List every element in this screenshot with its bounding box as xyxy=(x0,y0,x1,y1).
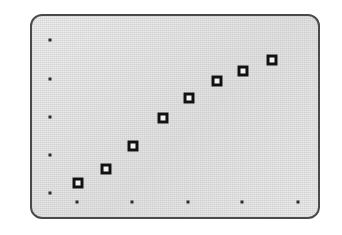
data-point-marker xyxy=(184,93,195,104)
x-axis-tick-2 xyxy=(187,201,190,204)
y-axis-tick-4 xyxy=(49,192,52,195)
data-point-marker xyxy=(128,141,139,152)
x-axis-tick-0 xyxy=(76,201,79,204)
x-axis-tick-1 xyxy=(131,201,134,204)
data-point-marker xyxy=(212,76,223,87)
figure-root xyxy=(0,0,342,235)
data-point-marker xyxy=(267,55,278,66)
x-axis-tick-3 xyxy=(241,201,244,204)
data-point-marker xyxy=(158,113,169,124)
data-point-marker xyxy=(101,164,112,175)
y-axis-tick-3 xyxy=(49,154,52,157)
y-axis-tick-1 xyxy=(49,78,52,81)
x-axis-tick-4 xyxy=(297,201,300,204)
data-point-marker xyxy=(73,178,84,189)
data-point-marker xyxy=(238,66,249,77)
y-axis-tick-0 xyxy=(49,39,52,42)
y-axis-tick-2 xyxy=(49,116,52,119)
